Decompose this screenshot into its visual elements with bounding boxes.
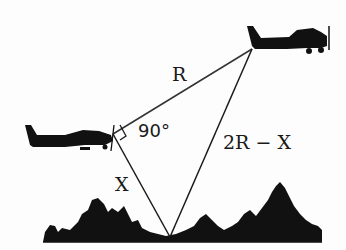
label-r: R	[172, 65, 186, 84]
label-x: X	[115, 175, 129, 194]
diagram-svg	[0, 0, 346, 250]
label-2r-minus-x: 2R − X	[223, 133, 291, 152]
upper-plane-icon	[247, 26, 329, 54]
label-right-angle: 90°	[138, 122, 170, 140]
line-r	[113, 49, 252, 134]
diagram-canvas: R 90° 2R − X X	[0, 0, 346, 250]
tree-line-icon	[43, 182, 322, 242]
lower-plane-icon	[25, 125, 114, 151]
